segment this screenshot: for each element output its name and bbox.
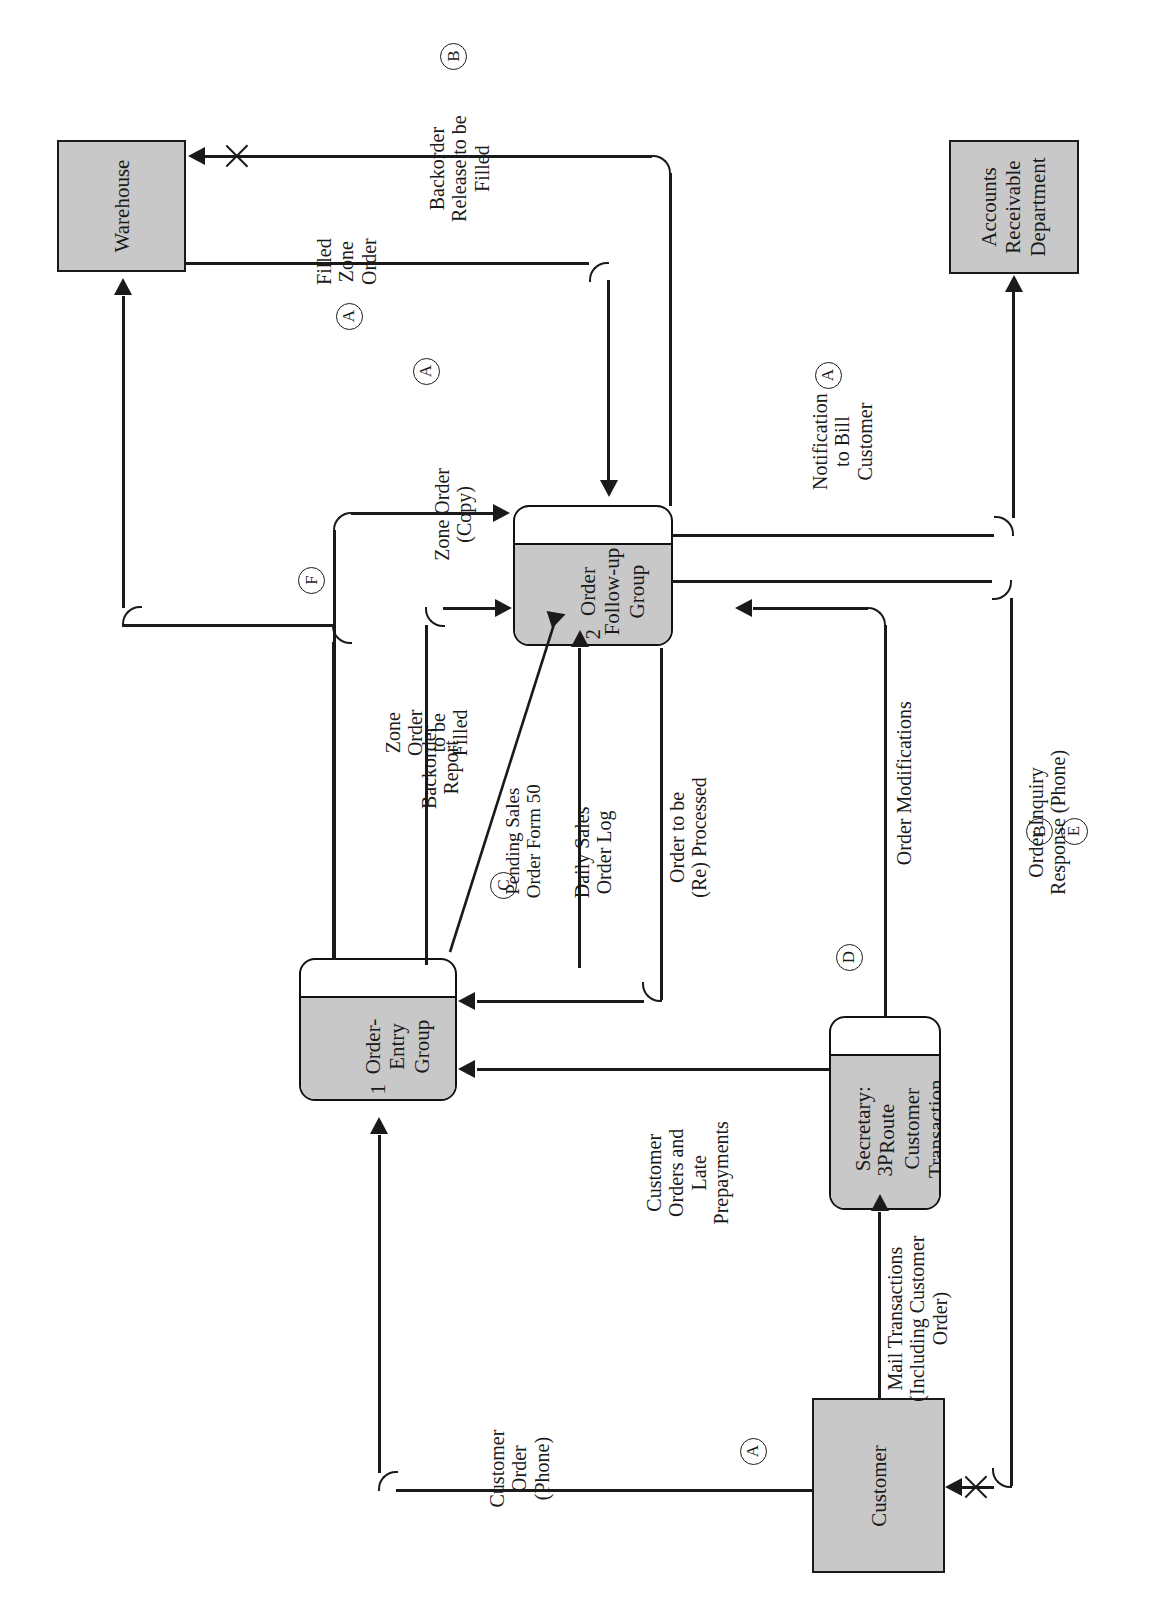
flow-filled-zone-order-label: Filled Zone Order (313, 212, 380, 312)
process-1-label: Order- Entry Group (361, 987, 434, 1101)
flow-order-inquiry-corner-2 (992, 1468, 1012, 1488)
flow-customer-order-phone-ref-a: A (740, 1438, 767, 1465)
flow-filled-zone-order-segment-v (607, 280, 610, 480)
flow-customer-orders-prepayments-arrowhead (458, 1060, 475, 1078)
flow-customer-order-phone-label: Customer Order (Phone) (486, 1404, 553, 1534)
flow-order-inquiry-segment-v (1010, 598, 1013, 1486)
flow-daily-sales-log-label: Daily Sales Order Log (571, 787, 616, 917)
flow-notification-bill-arrowhead (1005, 275, 1023, 292)
flow-mail-transactions-arrowhead (871, 1194, 889, 1211)
flow-zone-order-copy-corner (333, 512, 353, 532)
entity-accounts-receivable[interactable]: Accounts Receivable Department (949, 140, 1079, 274)
flow-order-modifications-arrowhead (735, 599, 752, 617)
flow-customer-order-phone-arrowhead (370, 1117, 388, 1134)
flow-backorder-release-x-marker (222, 141, 252, 171)
process-3p-label: Secretary: Route Customer Transaction (851, 1041, 941, 1210)
flow-notification-bill-label: Notification to Bill Customer (809, 374, 876, 509)
flow-notification-bill-ref-a: A (815, 362, 842, 389)
flow-daily-sales-log-arrowhead (571, 630, 589, 647)
flow-backorder-release-ref-b: B (440, 43, 467, 70)
flow-notification-bill-segment-v (1012, 292, 1015, 518)
flow-order-inquiry-arrowhead (945, 1478, 962, 1496)
flow-order-reprocessed-segment-v (660, 648, 663, 1000)
process-order-entry-group[interactable]: 1 Order- Entry Group (299, 958, 457, 1101)
flow-zone-order-copy-label: Zone Order (Copy) (431, 444, 476, 584)
flow-order-modifications-label: Order Modifications (893, 683, 915, 883)
flow-zone-order-filled-segment-v1 (332, 642, 335, 960)
entity-customer[interactable]: Customer (812, 1398, 945, 1573)
flow-order-modifications-corner (866, 607, 886, 627)
flow-order-inquiry-ref-e: E (1061, 818, 1088, 845)
process-secretary-route-customer-transaction[interactable]: 3P Secretary: Route Customer Transaction (829, 1016, 941, 1210)
flow-notification-bill-segment-h (672, 534, 994, 537)
entity-warehouse[interactable]: Warehouse (57, 140, 186, 272)
flow-zone-order-filled-segment-v2 (122, 296, 125, 608)
flow-notification-bill-corner (994, 516, 1014, 536)
flow-backorder-release-corner (651, 155, 671, 175)
flow-customer-orders-prepayments-segment-h (477, 1068, 829, 1071)
flow-backorder-release-label: Backorder Release to be Filled (426, 99, 493, 239)
flow-order-inquiry-segment-h (672, 580, 992, 583)
flow-customer-order-phone-segment-v (378, 1135, 381, 1473)
flow-customer-order-phone-corner (378, 1471, 398, 1491)
marker-ref-f: F (298, 567, 325, 594)
diagram-canvas: Warehouse Accounts Receivable Department… (0, 0, 1167, 1601)
flow-customer-order-phone-segment-h (396, 1489, 812, 1492)
flow-order-modifications-segment-h (753, 607, 868, 610)
flow-order-reprocessed-segment-h (477, 1000, 644, 1003)
flow-zone-order-filled-corner-a (122, 606, 142, 626)
flow-mail-transactions-segment-v (878, 1212, 881, 1400)
flow-zone-order-filled-arrowhead (114, 278, 132, 295)
flow-order-reprocessed-arrowhead (458, 992, 475, 1010)
flow-order-inquiry-x-marker (961, 1472, 991, 1502)
entity-warehouse-label: Warehouse (109, 160, 133, 253)
flow-order-reprocessed-label: Order to be (Re) Processed (666, 762, 711, 912)
marker-ref-d: D (836, 944, 863, 971)
flow-filled-zone-order-corner (589, 262, 609, 282)
flow-filled-zone-order-segment-h (186, 262, 589, 265)
flow-backorder-release-segment-v (669, 173, 672, 506)
flow-order-inquiry-corner (992, 580, 1012, 600)
flow-zone-order-filled-segment-h (122, 624, 334, 627)
flow-backorder-release-arrowhead (188, 147, 205, 165)
entity-customer-label: Customer (866, 1445, 890, 1527)
flow-filled-zone-order-arrowhead (600, 480, 618, 497)
process-2-label: Order Follow-up Group (577, 527, 650, 646)
entity-accounts-receivable-label: Accounts Receivable Department (977, 157, 1050, 256)
flow-mail-transactions-label: Mail Transactions (Including Customer Or… (884, 1219, 951, 1419)
flow-order-inquiry-ref-b: B (1026, 818, 1053, 845)
flow-filled-zone-order-ref-a: A (336, 303, 363, 330)
flow-customer-orders-prepayments-label: Customer Orders and Late Prepayments (643, 1093, 733, 1253)
flow-zone-order-filled-ref-a: A (413, 358, 440, 385)
flow-pending-sales-order-ref-c: C (490, 872, 517, 899)
flow-zone-order-copy-arrowhead (493, 504, 510, 522)
flow-order-modifications-segment-v (884, 625, 887, 1017)
flow-order-reprocessed-corner (642, 982, 662, 1002)
